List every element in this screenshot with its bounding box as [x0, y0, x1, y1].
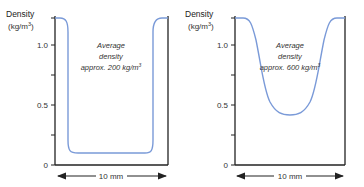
left-density-curve	[55, 18, 168, 153]
right-chart: Density (kg/m3) 1.0 0.5 0 Average densit…	[185, 9, 345, 181]
right-tick-0.5: 0.5	[217, 101, 229, 110]
right-xlabel: 10 mm	[278, 172, 303, 181]
left-tick-1.0: 1.0	[37, 41, 49, 50]
left-xlabel: 10 mm	[99, 172, 124, 181]
left-chart: Density (kg/m3) 1.0 0.5 0 Average densit…	[6, 9, 168, 181]
left-tick-0: 0	[44, 161, 49, 170]
right-ylabel: Density	[185, 9, 214, 19]
right-tick-1.0: 1.0	[217, 41, 229, 50]
right-annotation-line1: Average	[275, 41, 304, 50]
left-annotation-line1: Average	[96, 41, 125, 50]
density-profiles-figure: Density (kg/m3) 1.0 0.5 0 Average densit…	[0, 0, 364, 187]
right-annotation-line3: approx. 600 kg/m3	[260, 62, 321, 72]
left-yunit: (kg/m3)	[8, 21, 34, 31]
right-tick-0: 0	[224, 161, 229, 170]
right-annotation-line2: density	[278, 52, 303, 61]
left-annotation-line2: density	[99, 52, 124, 61]
right-yunit: (kg/m3)	[188, 21, 214, 31]
left-ylabel: Density	[6, 9, 35, 19]
left-annotation-line3: approx. 200 kg/m3	[81, 62, 142, 72]
left-tick-0.5: 0.5	[37, 101, 49, 110]
